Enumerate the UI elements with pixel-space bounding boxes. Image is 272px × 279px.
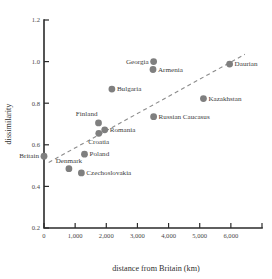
y-tick-label: 0.4 [32,183,41,190]
scatter-plot-figure: 0.20.40.60.81.01.201,0002,0003,0004,0005… [0,0,272,279]
x-tick-label: 6,000 [223,232,239,239]
y-axis-title: dissimilarity [4,103,13,145]
point-label: Romania [110,126,136,134]
data-point [150,66,157,73]
point-label: Armenia [158,66,184,74]
point-label: Georgia [126,58,150,66]
x-axis-title: distance from Britain (km) [112,264,200,273]
data-point [66,165,73,172]
data-point [150,113,157,120]
x-tick-label: 0 [42,232,46,239]
point-label: Russian Caucasus [159,113,210,121]
x-tick-label: 4,000 [161,232,177,239]
data-point [95,130,102,137]
point-label: Britain [19,152,39,160]
trend-line [49,54,245,162]
point-label: Finland [76,110,98,118]
point-label: Croatia [88,138,110,146]
y-tick-label: 0.2 [32,224,40,231]
x-tick-label: 1,000 [68,232,84,239]
data-point [41,153,48,160]
y-tick-label: 0.6 [32,141,41,148]
data-point [200,95,207,102]
point-labels: BritainDenmarkCzechoslovakiaPolandFinlan… [19,58,258,177]
x-tick-label: 2,000 [99,232,115,239]
y-tick-label: 1.0 [32,58,41,65]
data-point [78,169,85,176]
x-tick-label: 5,000 [192,232,208,239]
y-tick-label: 0.8 [32,100,41,107]
plot-canvas: 0.20.40.60.81.01.201,0002,0003,0004,0005… [0,0,272,279]
axes: 0.20.40.60.81.01.201,0002,0003,0004,0005… [32,16,262,239]
point-label: Kazakhstan [208,95,242,103]
point-label: Denmark [56,157,83,165]
point-label: Poland [89,150,109,158]
data-point [95,120,102,127]
data-point [101,126,108,133]
y-tick-label: 1.2 [32,16,40,23]
point-label: Daurian [235,60,258,68]
data-point [108,86,115,93]
point-label: Bulgaria [117,85,142,93]
x-tick-label: 3,000 [130,232,146,239]
point-label: Czechoslovakia [86,169,132,177]
data-point [226,61,233,68]
data-point [150,58,157,65]
